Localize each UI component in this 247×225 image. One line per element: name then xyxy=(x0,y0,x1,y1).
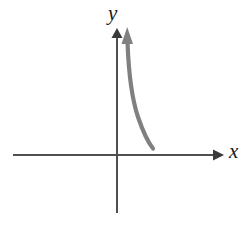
y-axis-label: y xyxy=(108,3,117,24)
exponential-decay-curve xyxy=(128,42,154,149)
x-axis-label: x xyxy=(229,141,238,162)
curve-arrowhead xyxy=(122,27,134,44)
exponential-curve-group xyxy=(122,27,154,149)
y-axis-arrowhead xyxy=(112,28,123,38)
axes-group xyxy=(13,28,224,213)
x-axis-arrowhead xyxy=(213,150,224,161)
graph-figure: y x xyxy=(0,0,247,225)
coordinate-plot xyxy=(0,0,247,225)
